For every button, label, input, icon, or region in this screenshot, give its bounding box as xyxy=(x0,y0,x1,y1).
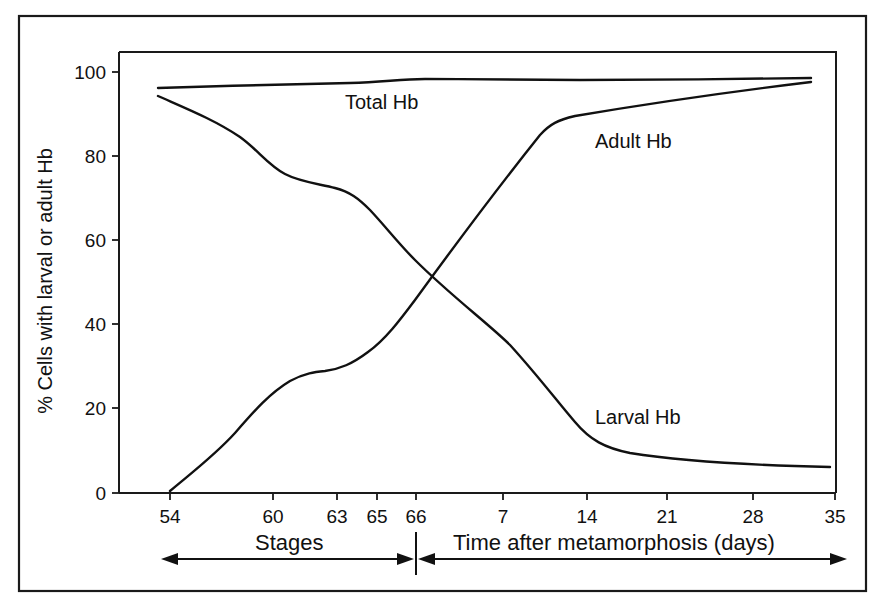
x-tick-label: 60 xyxy=(262,506,283,527)
x-tick-label: 63 xyxy=(326,506,347,527)
x-tick-label: 28 xyxy=(742,506,763,527)
larval-hb-label: Larval Hb xyxy=(595,406,681,428)
y-tick-label: 100 xyxy=(74,62,106,83)
outer-frame xyxy=(19,16,866,591)
y-tick-labels: 0 20 40 60 80 100 xyxy=(74,62,106,504)
chart-figure: 0 20 40 60 80 100 % Cells with larval or… xyxy=(0,0,874,604)
arrow-right-icon xyxy=(830,553,847,565)
x-tick-label: 14 xyxy=(576,506,598,527)
x-tick-label: 35 xyxy=(824,506,845,527)
arrow-left-icon xyxy=(418,553,435,565)
larval-hb-curve xyxy=(158,96,830,467)
total-hb-label: Total Hb xyxy=(345,91,418,113)
adult-hb-curve xyxy=(170,82,811,491)
chart-svg: 0 20 40 60 80 100 % Cells with larval or… xyxy=(0,0,874,604)
y-tick-label: 0 xyxy=(95,483,106,504)
x-tick-label: 21 xyxy=(656,506,677,527)
arrow-left-icon xyxy=(161,553,178,565)
plot-border xyxy=(119,52,836,493)
x-ticks xyxy=(170,493,835,500)
x-tick-label: 65 xyxy=(366,506,387,527)
total-hb-curve xyxy=(158,78,811,88)
y-tick-label: 20 xyxy=(85,398,106,419)
x-tick-labels: 54 60 63 65 66 7 14 21 28 35 xyxy=(159,506,845,527)
x-tick-label: 54 xyxy=(159,506,181,527)
y-tick-label: 80 xyxy=(85,146,106,167)
arrow-right-icon xyxy=(397,553,414,565)
y-ticks xyxy=(112,72,119,493)
y-axis-title: % Cells with larval or adult Hb xyxy=(34,148,56,414)
stages-label: Stages xyxy=(255,530,324,555)
x-tick-label: 66 xyxy=(405,506,426,527)
adult-hb-label: Adult Hb xyxy=(595,130,672,152)
x-tick-label: 7 xyxy=(498,506,509,527)
time-after-label: Time after metamorphosis (days) xyxy=(453,530,775,555)
y-tick-label: 60 xyxy=(85,230,106,251)
y-tick-label: 40 xyxy=(85,314,106,335)
